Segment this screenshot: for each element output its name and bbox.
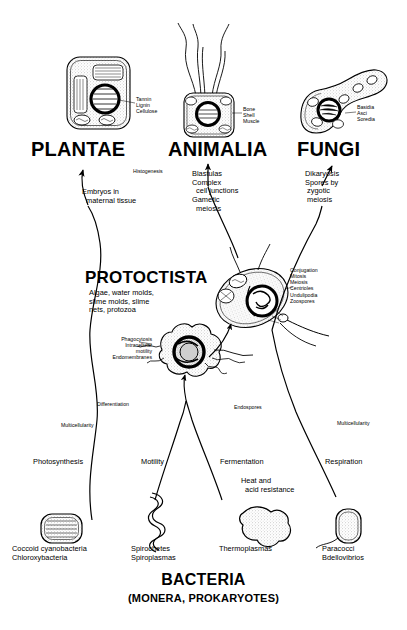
branch-fermentation xyxy=(186,400,222,500)
kingdom-title-fungi: FUNGI xyxy=(297,138,360,162)
branch-photosynthesis-to-plantae xyxy=(88,206,101,520)
transition-heat-acid-resistance: Heat and acid resistance xyxy=(241,477,294,494)
transition-respiration: Respiration xyxy=(325,458,362,467)
base-title-bacteria: BACTERIA xyxy=(0,571,407,590)
diagram-artwork xyxy=(0,0,407,630)
bacteria-label-spirochetes: Spirochetes Spiroplasmas xyxy=(131,545,176,562)
bacteria-label-cyanobacteria: Coccoid cyanobacteria Chloroxybacteria xyxy=(12,545,87,562)
protoctista-description: Algae, water molds, slime molds, slime n… xyxy=(89,289,154,315)
protoctista-features-right: Conjugation Mitosis Meiosis Centrioles U… xyxy=(290,267,318,304)
transition-animalia: Blastulas Complex cell junctions Gametic… xyxy=(192,170,238,214)
bacteria-label-paracocci: Paracocci Bdellovibrios xyxy=(322,545,364,562)
transition-plantae: Embryos in maternal tissue xyxy=(82,188,136,205)
arrow-to-amoeba xyxy=(184,375,186,400)
kingdom-title-animalia: ANIMALIA xyxy=(168,138,267,162)
animalia-cell-labels: Bone Shell Muscle xyxy=(243,106,259,124)
transition-endospores: Endospores xyxy=(234,404,262,410)
base-subtitle-monera: (MONERA, PROKARYOTES) xyxy=(0,592,407,605)
bacteria-label-thermoplasmas: Thermoplasmas xyxy=(219,545,272,554)
protoctista-features-left: Phagocytosis Intracellular motility Endo… xyxy=(88,336,152,361)
diagram-canvas: Tannin Lignin Cellulose Bone Shell Muscl… xyxy=(0,0,407,630)
plantae-cell-labels: Tannin Lignin Cellulose xyxy=(136,96,157,114)
kingdom-title-plantae: PLANTAE xyxy=(31,138,125,162)
transition-multicellularity-left: Multicellularity xyxy=(61,422,94,428)
kingdom-title-protoctista: PROTOCTISTA xyxy=(85,268,207,288)
transition-histogenesis: Histogenesis xyxy=(133,168,163,174)
transition-photosynthesis: Photosynthesis xyxy=(33,458,83,467)
plant-cell-illustration xyxy=(67,57,135,129)
cyanobacteria-illustration xyxy=(41,514,82,543)
animal-cell-illustration xyxy=(178,23,242,137)
transition-differentiation: Differentiation xyxy=(97,401,129,407)
branch-motility xyxy=(155,401,186,500)
protist-amoeba-illustration xyxy=(137,324,253,376)
transition-motility: Motility xyxy=(141,458,164,467)
paracoccus-illustration xyxy=(316,509,361,548)
branch-respiration xyxy=(272,330,336,497)
fungi-cell-labels: Basidia Asci Soredia xyxy=(357,104,375,122)
thermoplasma-illustration xyxy=(240,507,291,547)
transition-multicellularity-right: Multicellularity xyxy=(337,420,370,426)
fungal-cell-illustration xyxy=(301,70,387,133)
transition-fungi: Dikaryosis Spores by zygotic meiosis xyxy=(305,170,339,205)
transition-fermentation: Fermentation xyxy=(220,458,264,467)
